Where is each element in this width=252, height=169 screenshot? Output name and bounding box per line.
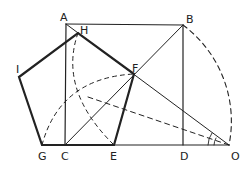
- arc-GF: [42, 74, 134, 145]
- label-I: I: [16, 64, 19, 75]
- label-D: D: [180, 151, 188, 162]
- label-A: A: [60, 12, 68, 23]
- label-H: H: [80, 25, 88, 36]
- label-G: G: [38, 151, 47, 162]
- arc-BO: [183, 25, 231, 145]
- geometry-diagram: [0, 0, 252, 169]
- arc-HE: [73, 33, 114, 145]
- label-E: E: [110, 151, 117, 162]
- label-C: C: [61, 151, 69, 162]
- dashed-line-FO: [88, 97, 229, 145]
- label-O: O: [231, 151, 240, 162]
- segment-CB: [65, 25, 183, 145]
- label-B: B: [186, 14, 194, 25]
- angle-arc-inner: [214, 138, 216, 145]
- label-F: F: [132, 63, 138, 74]
